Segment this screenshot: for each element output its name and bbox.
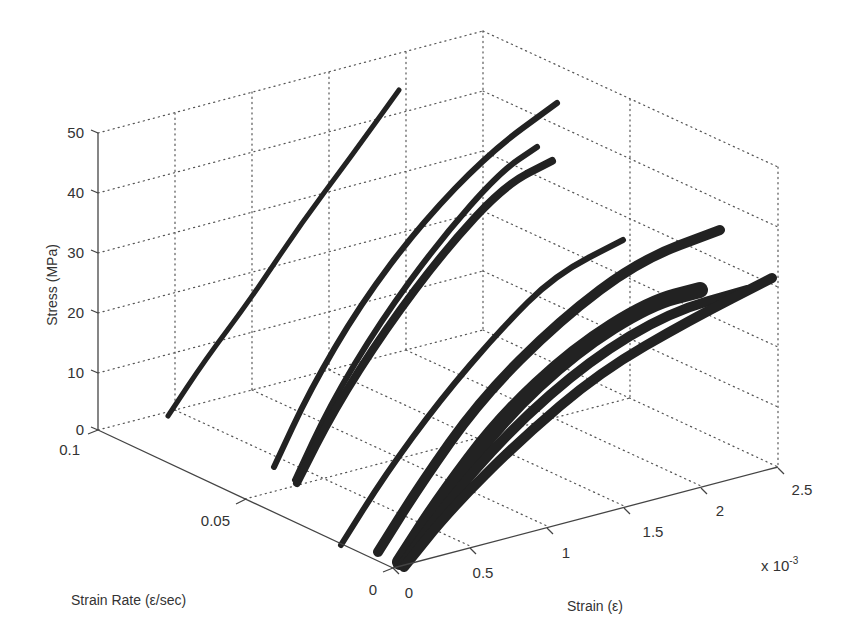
svg-text:0: 0 [405, 584, 413, 601]
svg-text:0.5: 0.5 [473, 564, 494, 581]
y-tick-labels: 0.1 0.05 0 [59, 441, 377, 598]
y-axis-label: Strain Rate (ε/sec) [71, 592, 186, 608]
svg-text:2: 2 [716, 502, 724, 519]
z-tick-labels: 50 40 30 20 10 0 [67, 124, 84, 438]
svg-text:0: 0 [369, 581, 377, 598]
svg-text:0: 0 [76, 421, 84, 438]
svg-text:2.5: 2.5 [792, 481, 813, 498]
svg-text:0.1: 0.1 [59, 441, 80, 458]
stress-strain-3d-plot: 50 40 30 20 10 0 0.1 0.05 0 0 0.5 1 1.5 … [0, 0, 851, 644]
svg-text:1: 1 [562, 544, 570, 561]
stress-strain-curve [402, 290, 747, 565]
svg-text:30: 30 [67, 244, 84, 261]
data-curves [168, 90, 772, 567]
x-axis-label: Strain (ε) [567, 598, 623, 614]
svg-text:1.5: 1.5 [643, 523, 664, 540]
svg-text:40: 40 [67, 184, 84, 201]
svg-text:20: 20 [67, 304, 84, 321]
z-axis-label: Stress (MPa) [44, 244, 60, 326]
x-multiplier: x 10-3 [761, 555, 799, 574]
svg-text:50: 50 [67, 124, 84, 141]
svg-text:10: 10 [67, 364, 84, 381]
svg-text:0.05: 0.05 [201, 512, 230, 529]
